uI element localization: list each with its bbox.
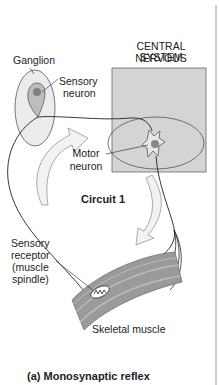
signal-arrow-down (136, 175, 161, 245)
motor-neuron-nucleus (151, 140, 159, 148)
figure-caption: (a) Monosynaptic reflex (27, 370, 150, 382)
receptor-label-4: spindle) (12, 273, 49, 285)
receptor-label-3: (muscle (12, 261, 49, 273)
receptor-label-1: Sensory (11, 237, 50, 249)
cns-label-2: SYSTEM (111, 51, 211, 63)
receptor-label-2: receptor (11, 249, 50, 261)
cns-box (112, 68, 206, 172)
ganglion-label: Ganglion (13, 54, 55, 66)
sensory-neuron-nucleus (33, 88, 41, 96)
skeletal-muscle (72, 252, 182, 330)
receptor-leader (56, 261, 94, 291)
motor-neuron-label-1: Motor (66, 147, 106, 159)
motor-neuron-label-2: neuron (66, 160, 106, 172)
skeletal-muscle-label: Skeletal muscle (92, 323, 166, 335)
circuit-label: Circuit 1 (81, 193, 125, 205)
sensory-neuron-label-1: Sensory (59, 75, 98, 87)
sensory-neuron-label-2: neuron (63, 87, 96, 99)
